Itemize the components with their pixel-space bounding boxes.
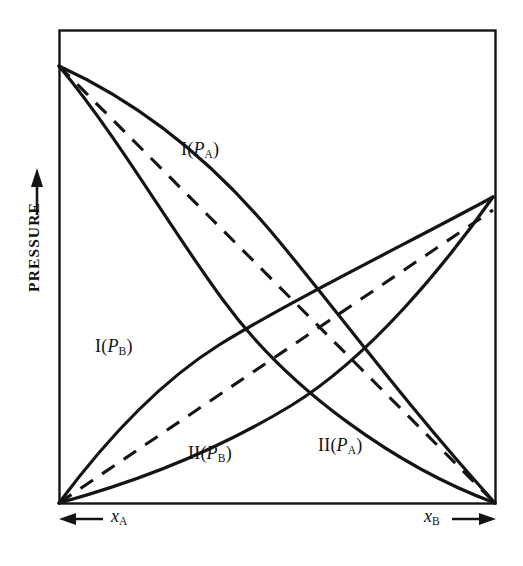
curve-label-ii-pa: II(PA) xyxy=(318,435,363,456)
x-axis-left-label: xA xyxy=(60,506,127,527)
x-axis-right-label-text: xB xyxy=(424,506,440,527)
x-axis-right-label: xB xyxy=(424,506,491,527)
curve-label-ii-pb: II(PB) xyxy=(188,443,232,464)
x-axis-left-label-text: xA xyxy=(111,506,127,527)
curve-label-i-pa: I(PA) xyxy=(181,139,219,160)
plot-canvas xyxy=(0,0,523,566)
y-axis-up-arrow-icon xyxy=(31,168,43,215)
curve-label-i-pb: I(PB) xyxy=(95,336,133,357)
vapour-pressure-diagram: PRESSURE xA xB I(PA) I(PB) II(PB) II(PA) xyxy=(0,0,523,566)
